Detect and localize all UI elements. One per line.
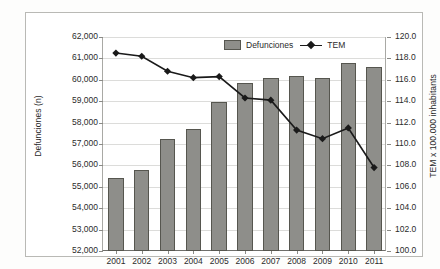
x-axis-tickmark (116, 251, 117, 254)
x-axis-tickmark (219, 251, 220, 254)
x-axis-tick-label: 2003 (154, 256, 182, 266)
left-axis-tick-label: 56,000 (52, 159, 98, 169)
x-axis-tickmark (168, 251, 169, 254)
left-axis-tick-label: 55,000 (52, 181, 98, 191)
right-axis-tickmark (387, 80, 391, 81)
x-axis-tickmark (193, 251, 194, 254)
left-axis-tick-label: 57,000 (52, 138, 98, 148)
x-axis-tick-label: 2002 (128, 256, 156, 266)
legend-bar-label: Defunciones (246, 40, 293, 50)
x-axis-tickmark (297, 251, 298, 254)
left-axis-tick-label: 59,000 (52, 95, 98, 105)
left-axis-tick-label: 58,000 (52, 117, 98, 127)
x-axis-tick-label: 2009 (308, 256, 336, 266)
legend-bar-swatch (224, 40, 241, 50)
chart-legend: Defunciones TEM (222, 39, 349, 51)
x-axis-tick-label: 2004 (179, 256, 207, 266)
x-axis-tick-label: 2008 (283, 256, 311, 266)
right-axis-tickmark (387, 251, 391, 252)
right-axis-tickmark (387, 230, 391, 231)
tem-data-point-marker (138, 53, 145, 60)
x-axis-tick-label: 2006 (231, 256, 259, 266)
right-axis-tickmark (387, 165, 391, 166)
right-axis-tick-label: 112.0 (395, 117, 440, 127)
right-axis-tick-label: 106.0 (395, 181, 440, 191)
x-axis-tickmark (245, 251, 246, 254)
right-axis-tick-label: 100.0 (395, 245, 440, 255)
tem-data-point-marker (319, 135, 326, 142)
x-axis-tickmark (374, 251, 375, 254)
right-axis-tickmark (387, 123, 391, 124)
left-axis-tick-label: 54,000 (52, 202, 98, 212)
right-axis-tick-label: 102.0 (395, 224, 440, 234)
x-axis-tickmark (348, 251, 349, 254)
tem-data-point-marker (112, 49, 119, 56)
tem-line-path (116, 53, 374, 167)
x-axis-tick-label: 2001 (102, 256, 130, 266)
plot-area: 62,00061,00060,00059,00058,00057,00056,0… (102, 37, 386, 251)
right-axis-tick-label: 108.0 (395, 159, 440, 169)
chart-figure: Defunciones (n) TEM x 100.000 inhabitant… (0, 0, 440, 269)
line-series-tem (103, 37, 387, 251)
left-axis-tick-label: 60,000 (52, 74, 98, 84)
left-axis-tick-label: 53,000 (52, 224, 98, 234)
x-axis-tick-label: 2010 (334, 256, 362, 266)
right-axis-tickmark (387, 58, 391, 59)
x-axis-tick-label: 2011 (360, 256, 388, 266)
x-axis-tickmark (271, 251, 272, 254)
tem-data-point-marker (164, 68, 171, 75)
left-axis-title: Defunciones (n) (33, 66, 43, 186)
right-axis-tickmark (387, 101, 391, 102)
left-axis-tickmark (99, 251, 103, 252)
chart-frame: Defunciones (n) TEM x 100.000 inhabitant… (25, 12, 423, 257)
right-axis-tickmark (387, 37, 391, 38)
right-axis-tick-label: 120.0 (395, 31, 440, 41)
right-axis-tick-label: 110.0 (395, 138, 440, 148)
tem-data-point-marker (190, 74, 197, 81)
right-axis-tickmark (387, 144, 391, 145)
left-axis-tick-label: 61,000 (52, 52, 98, 62)
right-axis-tick-label: 118.0 (395, 52, 440, 62)
x-axis-tickmark (322, 251, 323, 254)
x-axis-tick-label: 2007 (257, 256, 285, 266)
x-axis-tick-label: 2005 (205, 256, 233, 266)
legend-line-label: TEM (327, 40, 345, 50)
right-axis-tick-label: 104.0 (395, 202, 440, 212)
right-axis-tickmark (387, 208, 391, 209)
right-axis-tick-label: 114.0 (395, 95, 440, 105)
x-axis-tickmark (142, 251, 143, 254)
left-axis-tick-label: 52,000 (52, 245, 98, 255)
legend-line-marker-icon (300, 41, 322, 49)
right-axis-tick-label: 116.0 (395, 74, 440, 84)
left-axis-tick-label: 62,000 (52, 31, 98, 41)
right-axis-tickmark (387, 187, 391, 188)
